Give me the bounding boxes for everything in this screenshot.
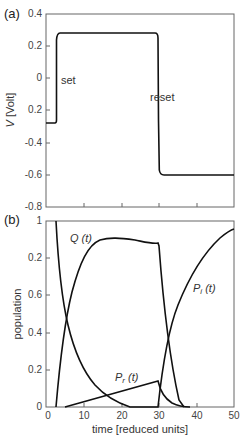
panel-b-y-title: population: [11, 289, 23, 340]
y-tick-label: 0.2: [28, 40, 42, 51]
x-tick-label: 50: [228, 410, 240, 421]
x-tick-label: 0: [45, 410, 51, 421]
y-tick-label: 0.4: [28, 327, 42, 338]
x-tick-label: 20: [116, 410, 128, 421]
y-tick-label: 0.2: [28, 104, 42, 115]
pr-label: Pr (t): [115, 371, 139, 385]
x-tick-label: 40: [191, 410, 203, 421]
panel-a-y-title: V [Volt]: [4, 93, 16, 128]
y-tick-label: 0: [36, 401, 42, 412]
panel-b-frame: [46, 221, 234, 407]
panel-a-frame: [46, 14, 234, 207]
y-tick-label: 0.2: [28, 364, 42, 375]
y-tick-label: 0.2: [28, 252, 42, 263]
figure: (a) 0.4 0.2 0 0.2 -0.4 -0.6 -0.8 V [Volt…: [0, 0, 246, 437]
y-tick-label: 1: [36, 215, 42, 226]
panel-a-label: (a): [4, 6, 20, 21]
y-tick-label: 0: [36, 72, 42, 83]
y-tick-label: 0.4: [28, 8, 42, 19]
set-annotation: set: [61, 74, 76, 86]
voltage-curve: [46, 33, 234, 175]
y-tick-label: -0.4: [25, 137, 43, 148]
y-tick-label: -0.8: [25, 201, 43, 212]
y-tick-label: -0.6: [25, 169, 43, 180]
reset-annotation: reset: [150, 91, 174, 103]
panel-b-label: (b): [4, 212, 20, 227]
x-tick-label: 30: [153, 410, 165, 421]
panel-a-y-axis: 0.4 0.2 0 0.2 -0.4 -0.6 -0.8 V [Volt]: [4, 8, 50, 212]
panel-b-x-title: time [reduced units]: [92, 423, 188, 435]
y-tick-label: 0.6: [28, 289, 42, 300]
pi-label: Pi (t): [193, 282, 216, 296]
x-tick-label: 10: [78, 410, 90, 421]
panel-a: (a) 0.4 0.2 0 0.2 -0.4 -0.6 -0.8 V [Volt…: [4, 6, 234, 212]
panel-b-y-axis: 1 0.2 0.6 0.4 0.2 0 population: [11, 215, 50, 412]
panel-b: (b) 1 0.2 0.6 0.4 0.2 0 population 0 10 …: [4, 212, 240, 435]
panel-a-x-axis: [84, 203, 197, 207]
q-label: Q (t): [70, 232, 92, 244]
pi-curve: [56, 221, 234, 407]
